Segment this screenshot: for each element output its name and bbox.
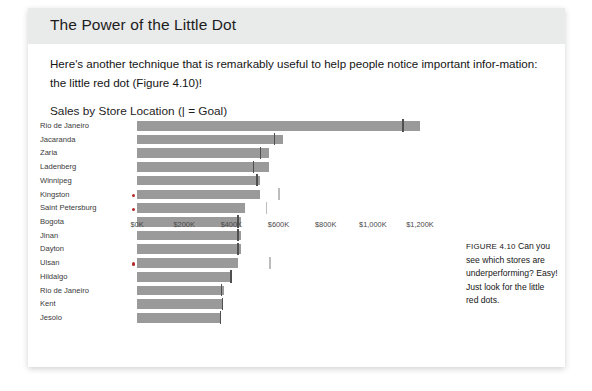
figure-caption: FIGURE 4.10 Can you see which stores are… xyxy=(466,240,558,308)
body-paragraph: Here's another technique that is remarka… xyxy=(50,54,545,92)
bar-category-label: Kent xyxy=(40,299,132,308)
bar-category-label: Jesolo xyxy=(40,313,132,322)
bar-segment xyxy=(137,286,224,296)
x-axis: $0K$200K$400K$600K$800K$1,000K$1,200K xyxy=(28,220,565,240)
red-dot-icon xyxy=(132,208,135,211)
bar-segment xyxy=(137,121,420,131)
bar-segment xyxy=(137,148,269,158)
bar-category-label: Ulsan xyxy=(40,258,132,267)
table-row: Winnipeg xyxy=(28,175,565,189)
table-row: Jesolo xyxy=(28,312,565,326)
bar-category-label: Rio de Janeiro xyxy=(40,286,132,295)
table-row: Saint Petersburg xyxy=(28,202,565,216)
figure-caption-label: FIGURE 4.10 xyxy=(466,242,516,251)
bar-segment xyxy=(137,203,245,213)
goal-marker xyxy=(278,188,280,200)
x-axis-tick-label: $1,000K xyxy=(359,220,387,229)
goal-marker xyxy=(266,202,268,214)
x-axis-tick-label: $1,200K xyxy=(406,220,434,229)
goal-marker xyxy=(222,298,224,310)
bar-category-label: Winnipeg xyxy=(40,176,132,185)
goal-marker xyxy=(269,257,271,269)
bar-segment xyxy=(137,190,260,200)
bar-category-label: Hildalgo xyxy=(40,272,132,281)
x-axis-tick-label: $200K xyxy=(173,220,194,229)
x-axis-tick-label: $600K xyxy=(268,220,289,229)
x-axis-tick-label: $400K xyxy=(221,220,242,229)
bar-category-label: Dayton xyxy=(40,244,132,253)
table-row: Rio de Janeiro xyxy=(28,120,565,134)
bar-segment xyxy=(137,258,238,268)
goal-marker xyxy=(230,270,232,282)
bar-segment xyxy=(137,135,283,145)
goal-marker xyxy=(253,161,255,173)
table-row: Kingston xyxy=(28,189,565,203)
chart-title: Sales by Store Location (| = Goal) xyxy=(50,104,227,118)
document-page: The Power of the Little Dot Here's anoth… xyxy=(28,8,565,367)
table-row: Zaria xyxy=(28,147,565,161)
goal-marker xyxy=(221,284,223,296)
goal-marker xyxy=(260,147,262,159)
red-dot-icon xyxy=(132,262,135,265)
bar-category-label: Rio de Janeiro xyxy=(40,121,132,130)
page-title: The Power of the Little Dot xyxy=(50,16,236,34)
bar-category-label: Ladenberg xyxy=(40,162,132,171)
goal-marker xyxy=(402,119,404,131)
table-row: Jacaranda xyxy=(28,134,565,148)
goal-marker xyxy=(237,243,239,255)
bar-segment xyxy=(137,244,241,254)
goal-marker xyxy=(274,133,276,145)
bar-category-label: Kingston xyxy=(40,190,132,199)
red-dot-icon xyxy=(132,194,135,197)
goal-marker xyxy=(256,174,258,186)
bar-segment xyxy=(137,313,221,323)
x-axis-tick-label: $0K xyxy=(130,220,143,229)
bar-category-label: Saint Petersburg xyxy=(40,203,132,212)
goal-marker xyxy=(220,311,222,323)
bar-segment xyxy=(137,162,269,172)
bar-segment xyxy=(137,176,260,186)
bar-category-label: Jacaranda xyxy=(40,135,132,144)
bar-category-label: Zaria xyxy=(40,148,132,157)
bar-segment xyxy=(137,272,231,282)
table-row: Ladenberg xyxy=(28,161,565,175)
x-axis-tick-label: $800K xyxy=(315,220,336,229)
bar-segment xyxy=(137,299,222,309)
